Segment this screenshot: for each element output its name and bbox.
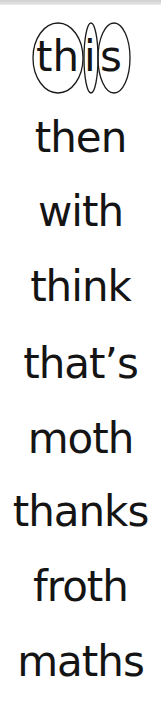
scan-edge-strip — [0, 0, 161, 5]
word-moth: moth — [0, 414, 161, 464]
segment-i: i — [84, 32, 96, 82]
segment-s: s — [100, 32, 122, 82]
word-thats: that’s — [0, 339, 161, 389]
segment-ovals-icon — [0, 18, 161, 98]
word-maths: maths — [0, 637, 161, 687]
word-with: with — [0, 187, 161, 237]
word-thanks: thanks — [0, 487, 161, 537]
segment-th: th — [36, 32, 79, 82]
word-then: then — [0, 113, 161, 163]
word-think: think — [0, 262, 161, 312]
segmented-word-this: th i s — [0, 18, 161, 98]
word-froth: froth — [0, 562, 161, 612]
